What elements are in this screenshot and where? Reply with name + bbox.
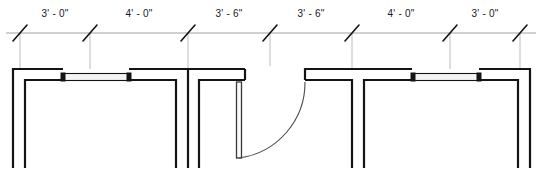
left-glazing-panel [61,73,132,82]
right-center-pier-inner [364,80,412,168]
left-center-pier-outer [129,69,188,168]
left-glazing-end-cap-start [61,73,66,82]
floor-plan-svg: 3' - 0" 4' - 0" 3' - 6" 3' - 6" 4' - 0" … [0,0,542,178]
dimension-label-5: 4' - 0" [388,8,415,19]
left-center-pier-inner [129,80,176,168]
dimension-label-2: 4' - 0" [126,8,153,19]
right-storefront-assembly [305,69,530,168]
right-door-jamb-edge [305,69,412,80]
right-door-jamb-inner [305,80,352,168]
swing-door [237,82,306,158]
dimension-label-6: 3' - 0" [472,8,499,19]
left-inner-wall [25,80,63,168]
door-leaf [237,82,242,158]
dimension-labels: 3' - 0" 4' - 0" 3' - 6" 3' - 6" 4' - 0" … [42,8,499,19]
right-glazing-panel [411,73,482,82]
door-swing-arc [239,82,305,158]
dimension-label-1: 3' - 0" [42,8,69,19]
left-outer-wall [13,69,63,168]
left-glazing-end-cap-end [127,73,132,82]
right-outer-wall [479,69,530,168]
right-inner-wall [479,80,518,168]
left-storefront-assembly [13,69,245,168]
right-glazing-glass [412,74,480,81]
dimension-chain: 3' - 0" 4' - 0" 3' - 6" 3' - 6" 4' - 0" … [6,8,536,69]
dimension-label-3: 3' - 6" [216,8,243,19]
left-glazing-glass [62,74,130,81]
architectural-plan-drawing: 3' - 0" 4' - 0" 3' - 6" 3' - 6" 4' - 0" … [0,0,542,178]
right-glazing-end-cap-end [477,73,482,82]
right-glazing-end-cap-start [411,73,416,82]
dimension-label-4: 3' - 6" [298,8,325,19]
